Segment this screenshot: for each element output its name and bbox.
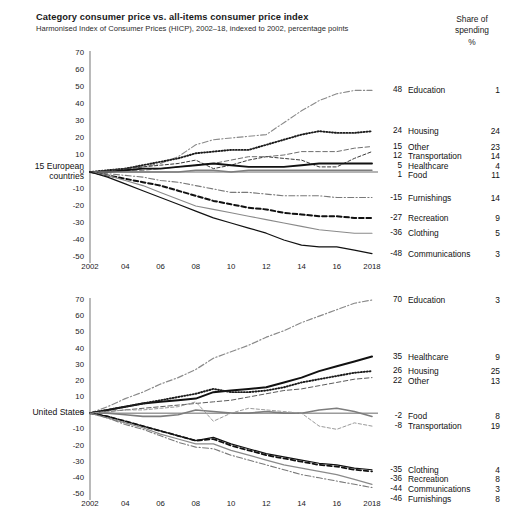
leader-other: [372, 374, 400, 386]
endpoint-label-housing: Housing: [408, 126, 439, 136]
share-value-communications: 3: [482, 484, 500, 494]
share-value-clothing: 5: [482, 228, 500, 238]
share-value-transportation: 19: [482, 421, 500, 431]
share-value-recreation: 8: [482, 474, 500, 484]
share-value-furnishings: 8: [482, 494, 500, 504]
endpoint-label-furnishings: Furnishings: [408, 193, 451, 203]
endpoint-label-education: Education: [408, 295, 445, 305]
chart-page: Category consumer price vs. all-items co…: [0, 0, 513, 525]
leader-education: [372, 293, 400, 305]
share-value-other: 13: [482, 376, 500, 386]
y-tick-label: -30: [58, 457, 84, 466]
share-value-food: 8: [482, 411, 500, 421]
series-line-clothing: [90, 413, 372, 470]
endpoint-label-recreation: Recreation: [408, 474, 449, 484]
endpoint-label-communications: Communications: [408, 249, 470, 259]
y-tick-label: 50: [58, 327, 84, 336]
endpoint-label-furnishings: Furnishings: [408, 494, 451, 504]
x-tick-label: 04: [110, 499, 140, 508]
endpoint-label-other: Other: [408, 142, 429, 152]
share-value-education: 1: [482, 85, 500, 95]
endpoint-label-transportation: Transportation: [408, 421, 462, 431]
y-tick-label: -20: [58, 441, 84, 450]
x-tick-label: 06: [146, 499, 176, 508]
y-tick-label: 10: [58, 392, 84, 401]
x-tick-label: 12: [251, 499, 281, 508]
share-value-housing: 25: [482, 366, 500, 376]
share-value-clothing: 4: [482, 465, 500, 475]
leader-communications: [372, 247, 400, 259]
share-value-healthcare: 9: [482, 352, 500, 362]
endpoint-label-other: Other: [408, 376, 429, 386]
share-value-food: 11: [482, 170, 500, 180]
endpoint-label-healthcare: Healthcare: [408, 352, 449, 362]
endpoint-label-education: Education: [408, 85, 445, 95]
leader-transportation: [372, 419, 400, 431]
x-tick-label: 10: [216, 499, 246, 508]
endpoint-label-healthcare: Healthcare: [408, 161, 449, 171]
endpoint-label-clothing: Clothing: [408, 465, 439, 475]
endpoint-label-communications: Communications: [408, 484, 470, 494]
y-tick-label: -40: [58, 473, 84, 482]
x-tick-label: 08: [181, 499, 211, 508]
share-value-housing: 24: [482, 126, 500, 136]
share-value-communications: 3: [482, 249, 500, 259]
y-tick-label: 60: [58, 311, 84, 320]
endpoint-label-food: Food: [408, 170, 427, 180]
leader-furnishings: [372, 191, 400, 203]
leader-furnishings: [372, 492, 400, 504]
share-value-education: 3: [482, 295, 500, 305]
series-line-other: [90, 378, 372, 414]
share-value-furnishings: 14: [482, 193, 500, 203]
share-value-healthcare: 4: [482, 161, 500, 171]
endpoint-label-housing: Housing: [408, 366, 439, 376]
leader-healthcare: [372, 350, 400, 362]
series-line-education: [90, 300, 372, 413]
share-value-recreation: 9: [482, 213, 500, 223]
leader-education: [372, 83, 400, 95]
endpoint-label-recreation: Recreation: [408, 213, 449, 223]
x-tick-label: 16: [322, 499, 352, 508]
y-tick-label: 0: [58, 408, 84, 417]
x-tick-label: 14: [287, 499, 317, 508]
series-line-recreation: [90, 413, 372, 471]
share-value-other: 23: [482, 142, 500, 152]
endpoint-label-clothing: Clothing: [408, 228, 439, 238]
endpoint-label-food: Food: [408, 411, 427, 421]
series-line-communications: [90, 413, 372, 484]
series-line-housing: [90, 371, 372, 413]
x-tick-label: 2002: [75, 499, 105, 508]
endpoint-label-transportation: Transportation: [408, 151, 462, 161]
y-tick-label: 30: [58, 360, 84, 369]
y-tick-label: -50: [58, 489, 84, 498]
y-tick-label: 20: [58, 376, 84, 385]
y-tick-label: 40: [58, 344, 84, 353]
share-value-transportation: 14: [482, 151, 500, 161]
leader-clothing: [372, 226, 400, 238]
leader-food: [372, 168, 400, 180]
leader-housing: [372, 124, 400, 136]
leader-recreation: [372, 211, 400, 223]
y-tick-label: -10: [58, 424, 84, 433]
y-tick-label: 70: [58, 295, 84, 304]
